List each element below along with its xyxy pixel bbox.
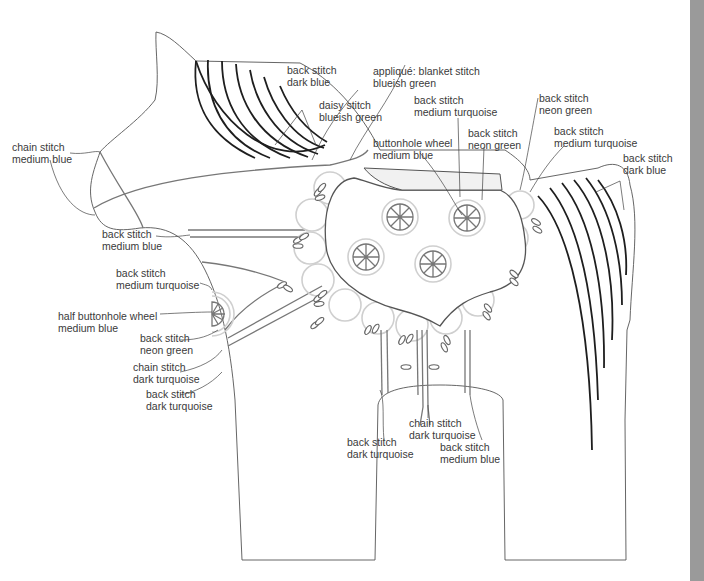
label-chest-chain: chain stitchdark turquoise	[133, 362, 200, 385]
label-head-stripes: back stitchdark blue	[287, 65, 337, 88]
label-head-daisy: daisy stitchblueish green	[319, 100, 382, 123]
label-saddle-neon: back stitchneon green	[468, 128, 521, 151]
label-chest-neon: back stitchneon green	[140, 333, 193, 356]
label-nose: chain stitchmedium blue	[12, 142, 72, 165]
belly-lines	[381, 330, 470, 425]
horse-outline-drawing	[0, 0, 704, 581]
label-half-wheel: half buttonhole wheelmedium blue	[58, 311, 157, 334]
label-wheel: buttonhole wheelmedium blue	[373, 138, 452, 161]
chest-diag-2	[228, 294, 325, 346]
label-chest-turquoise: back stitchmedium turquoise	[116, 268, 199, 291]
diagram-page: back stitchdark blue daisy stitchblueish…	[0, 0, 704, 581]
label-chest-dark-turquoise: back stitchdark turquoise	[146, 389, 213, 412]
label-back-neon: back stitchneon green	[539, 93, 592, 116]
half-wheel	[212, 292, 234, 336]
muzzle-line	[94, 150, 368, 208]
label-belly-blue: back stitchmedium blue	[440, 442, 500, 465]
label-belly-dark-turquoise: back stitchdark turquoise	[347, 437, 414, 460]
label-back-turquoise: back stitchmedium turquoise	[554, 126, 637, 149]
label-belly-chain: chain stitchdark turquoise	[409, 418, 476, 441]
label-chest-blue: back stitchmedium blue	[102, 229, 162, 252]
chest-curve	[202, 262, 285, 282]
tail-stripes	[538, 178, 626, 450]
label-tail: back stitchdark blue	[623, 153, 673, 176]
label-applique: appliqué: blanket stitchblueish green	[373, 66, 480, 89]
page-edge-strip	[690, 0, 704, 581]
saddle-shape	[325, 178, 525, 326]
label-saddle-turquoise: back stitchmedium turquoise	[414, 95, 497, 118]
